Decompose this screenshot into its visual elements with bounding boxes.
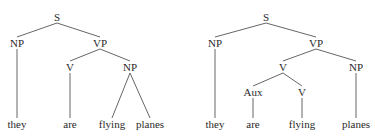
node-np: NP: [123, 62, 137, 73]
edge-s-np1: [215, 23, 266, 37]
edge-s-vp: [266, 23, 316, 37]
node-v: V: [298, 87, 306, 98]
node-s: S: [263, 12, 269, 23]
leaf-word-they: they: [206, 119, 225, 130]
edge-s-vp: [57, 23, 100, 37]
leaf-word-planes: planes: [136, 119, 164, 130]
leaf-word-are: are: [63, 119, 76, 130]
node-s: S: [54, 12, 60, 23]
node-aux: Aux: [244, 87, 263, 98]
node-np: NP: [349, 62, 363, 73]
edge-vp-v: [70, 49, 100, 61]
leaf-word-flying: flying: [99, 119, 125, 130]
node-v: V: [279, 62, 287, 73]
node-v: V: [66, 62, 74, 73]
edge-vp-np2: [316, 49, 356, 61]
leaf-word-planes: planes: [342, 119, 370, 130]
syntax-tree-diagram: SNPVPVNPtheyareflyingplanesSNPVPVNPAuxVt…: [0, 0, 375, 137]
leaf-word-they: they: [8, 119, 27, 130]
edge-v-v2: [283, 73, 302, 86]
node-vp: VP: [93, 38, 107, 49]
edge-s-np1: [17, 23, 57, 37]
node-np: NP: [10, 38, 24, 49]
leaf-word-are: are: [246, 119, 259, 130]
node-vp: VP: [309, 38, 323, 49]
edge-np2-w3: [112, 73, 130, 118]
leaf-word-flying: flying: [289, 119, 315, 130]
node-np: NP: [208, 38, 222, 49]
edge-vp-np2: [100, 49, 130, 61]
edge-np2-w4: [130, 73, 150, 118]
edge-v-aux: [253, 73, 283, 86]
edge-vp-v: [283, 49, 316, 61]
